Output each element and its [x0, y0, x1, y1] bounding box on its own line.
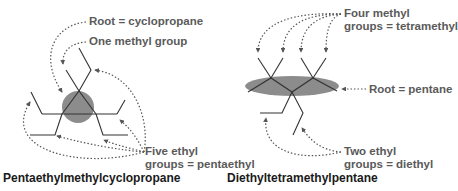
five-ethyl-label-line1: Five ethyl: [145, 145, 198, 158]
root-pentane-label: Root = pentane: [369, 83, 452, 96]
two-ethyl-label-line2: groups = diethyl: [344, 158, 433, 171]
two-ethyl-label-line1: Two ethyl: [344, 145, 396, 158]
one-methyl-label: One methyl group: [89, 35, 187, 48]
five-ethyl-label-line2: groups = pentaethyl: [145, 158, 255, 171]
root-cyclopropane-label: Root = cyclopropane: [89, 15, 203, 28]
four-methyl-label-line1: Four methyl: [344, 7, 410, 20]
right-compound-name: Diethyltetramethylpentane: [227, 171, 378, 185]
diethyltetramethylpentane-structure: [248, 58, 337, 135]
left-compound-name: Pentaethylmethylcyclopropane: [3, 171, 180, 185]
four-methyl-label-line2: groups = tetramethyl: [344, 20, 458, 33]
